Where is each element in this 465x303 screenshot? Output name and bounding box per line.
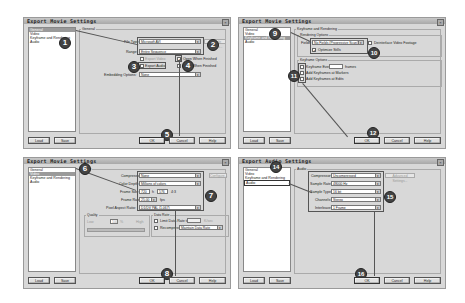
- help-button[interactable]: Help: [414, 277, 441, 284]
- dialog-title: Export Movie Settings: [27, 18, 97, 24]
- panel-label: Keyframe and Rendering: [296, 27, 338, 31]
- pixel-aspect-label: Pixel Aspect Ratio:: [106, 206, 136, 210]
- ok-button[interactable]: OK: [354, 277, 380, 284]
- highlight-video-settings: [137, 171, 204, 211]
- recompress-checkbox[interactable]: [154, 226, 158, 230]
- quality-high-label: High: [136, 220, 143, 224]
- export-movie-dialog-general: Export Movie Settings × General Video Ke…: [23, 17, 231, 149]
- add-keyframes-edits-label: Add Keyframes at Edits: [306, 77, 344, 81]
- step-badge-2: 2: [207, 39, 219, 51]
- embedding-value: None: [141, 73, 149, 77]
- annotation-arrow: [374, 212, 375, 276]
- cancel-button[interactable]: Cancel: [384, 277, 410, 284]
- frames-label: frames: [345, 65, 356, 69]
- quality-pct-label: %: [120, 220, 123, 224]
- deinterlace-checkbox[interactable]: [368, 41, 372, 45]
- save-button[interactable]: Save: [54, 277, 76, 284]
- data-rate-input[interactable]: [187, 218, 201, 223]
- close-button[interactable]: ×: [222, 19, 229, 26]
- load-button[interactable]: Load: [28, 277, 50, 284]
- close-button[interactable]: ×: [222, 159, 229, 166]
- close-button[interactable]: ×: [437, 159, 444, 166]
- add-keyframes-markers-label: Add Keyframes at Markers: [306, 71, 349, 75]
- embedding-select[interactable]: None▾: [139, 72, 201, 77]
- export-audio-dialog: Export Audio Settings × General Video Ke…: [238, 157, 446, 289]
- step-badge-6: 6: [79, 163, 91, 175]
- load-button[interactable]: Load: [243, 277, 265, 284]
- cancel-button[interactable]: Cancel: [169, 137, 195, 144]
- ok-button[interactable]: OK: [139, 137, 165, 144]
- group-label: Quality: [86, 213, 99, 217]
- export-video-label: Export Video: [145, 57, 166, 61]
- panel-label: Audio: [296, 167, 307, 171]
- nav-item-audio[interactable]: Audio: [244, 180, 290, 186]
- panel-label: General: [81, 27, 96, 31]
- deinterlace-label: Deinterlace Video Footage: [374, 41, 417, 45]
- embedding-label: Embedding Options:: [104, 73, 137, 77]
- dialog-title: Export Movie Settings: [242, 18, 312, 24]
- save-button[interactable]: Save: [269, 137, 291, 144]
- close-button[interactable]: ×: [437, 19, 444, 26]
- limit-data-rate-checkbox[interactable]: [154, 219, 158, 223]
- highlight-open-when-finished: [175, 55, 182, 62]
- title-bar: Export Movie Settings ×: [24, 158, 230, 164]
- settings-nav-list: General Video Keyframe and Rendering Aud…: [28, 167, 76, 272]
- export-movie-dialog-video: Export Movie Settings × General Video Ke…: [23, 157, 231, 289]
- recompress-label: Recompress: [160, 226, 180, 230]
- chevron-down-icon: ▾: [195, 73, 200, 77]
- settings-nav-list: General Video Keyframe and Rendering Aud…: [243, 167, 291, 272]
- step-badge-10: 10: [368, 47, 380, 59]
- export-movie-dialog-keyframe: Export Movie Settings × General Video Ke…: [238, 17, 446, 149]
- group-label: Keyframe Options: [299, 58, 328, 62]
- advanced-settings-button[interactable]: Advanced Settings...: [385, 173, 415, 178]
- step-badge-3: 3: [128, 61, 140, 73]
- highlight-audio-settings: [308, 171, 384, 212]
- recompress-value: Maintain Data Rate: [181, 226, 210, 230]
- quality-low-label: Low: [87, 220, 94, 224]
- highlight-export-audio: [138, 62, 166, 69]
- load-button[interactable]: Load: [243, 137, 265, 144]
- step-badge-11: 11: [288, 70, 300, 82]
- quality-input[interactable]: 100: [110, 219, 118, 224]
- recompress-select[interactable]: Maintain Data Rate▾: [179, 225, 223, 230]
- ok-button[interactable]: OK: [139, 277, 165, 284]
- help-button[interactable]: Help: [414, 137, 441, 144]
- range-label: Range:: [126, 50, 138, 54]
- step-badge-15: 15: [384, 191, 396, 203]
- nav-item-audio[interactable]: Audio: [29, 180, 75, 184]
- group-label: Rendering Options: [299, 33, 329, 37]
- save-button[interactable]: Save: [269, 277, 291, 284]
- chevron-down-icon: ▾: [217, 226, 222, 230]
- step-badge-7: 7: [205, 190, 217, 202]
- settings-nav-list: General Video Keyframe and Rendering Aud…: [243, 27, 291, 132]
- title-bar: Export Movie Settings ×: [239, 18, 445, 24]
- load-button[interactable]: Load: [28, 137, 50, 144]
- highlight-file-type-range: [137, 37, 204, 55]
- data-rate-unit: K/sec: [204, 219, 213, 223]
- group-label: Data Rate: [153, 213, 170, 217]
- nav-item-audio[interactable]: Audio: [244, 40, 290, 44]
- step-badge-1: 1: [59, 37, 71, 49]
- save-button[interactable]: Save: [54, 137, 76, 144]
- configure-button[interactable]: Configure...: [209, 173, 227, 178]
- quality-slider[interactable]: [87, 228, 145, 232]
- keyframe-every-label: Keyframe Every: [306, 65, 332, 69]
- export-video-checkbox[interactable]: [140, 57, 144, 61]
- step-badge-9: 9: [269, 28, 281, 40]
- title-bar: Export Movie Settings ×: [24, 18, 230, 24]
- cancel-button[interactable]: Cancel: [384, 137, 410, 144]
- help-button[interactable]: Help: [199, 277, 226, 284]
- annotation-arrow: [175, 211, 176, 276]
- nav-item-keyframe[interactable]: Keyframe and Rendering: [244, 176, 290, 180]
- keyframe-every-input[interactable]: [329, 64, 343, 69]
- help-button[interactable]: Help: [199, 137, 226, 144]
- annotation-arrow: [179, 62, 180, 136]
- highlight-fields: [310, 38, 368, 54]
- cancel-button[interactable]: Cancel: [169, 277, 195, 284]
- step-badge-4: 4: [182, 60, 194, 72]
- step-badge-14: 14: [270, 161, 282, 173]
- ok-button[interactable]: OK: [354, 137, 380, 144]
